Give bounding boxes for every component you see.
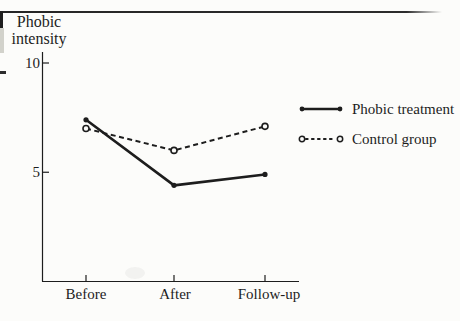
figure-page: Phobic intensity 10 5 Before After Follo… xyxy=(0,0,460,321)
x-tick-label-before: Before xyxy=(66,286,107,303)
x-tick-label-after: After xyxy=(159,286,191,303)
legend-label-control-group: Control group xyxy=(352,131,437,148)
legend-item-phobic-treatment: Phobic treatment xyxy=(297,101,454,117)
chart-legend: Phobic treatment Control group xyxy=(297,101,454,147)
x-tick-label-followup: Follow-up xyxy=(238,286,301,303)
legend-label-phobic-treatment: Phobic treatment xyxy=(352,101,454,118)
legend-item-control-group: Control group xyxy=(297,131,454,147)
line-chart-plot xyxy=(0,0,460,321)
solid-line-sample-icon xyxy=(297,101,345,117)
dotted-line-sample-icon xyxy=(297,131,345,147)
